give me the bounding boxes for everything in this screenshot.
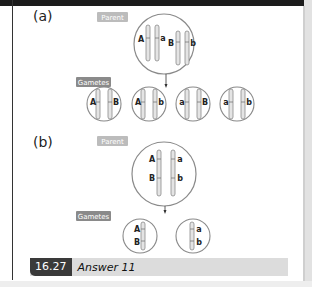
allele-label: A xyxy=(90,98,97,107)
gametes-a: ABAbaBab xyxy=(87,87,254,121)
chromosome xyxy=(190,222,194,250)
gametes-tag-text: Gametes xyxy=(78,79,110,87)
chromosome xyxy=(197,89,201,119)
arrow-down-icon xyxy=(165,84,168,88)
allele-label: a xyxy=(223,98,228,107)
chromosome xyxy=(176,31,180,65)
chromosome xyxy=(185,89,189,119)
parent-tag-b: Parent xyxy=(97,136,128,146)
chromosome xyxy=(108,89,112,119)
figure-caption-text: Answer 11 xyxy=(72,261,136,274)
chromosome xyxy=(229,89,233,119)
allele-label: A xyxy=(138,35,145,44)
chromosome xyxy=(157,150,161,196)
allele-label: B xyxy=(202,98,208,107)
parent-tag-text: Parent xyxy=(101,14,124,22)
parent-tag-text: Parent xyxy=(101,138,124,146)
allele-label: a xyxy=(196,225,201,234)
chromosome xyxy=(171,150,175,196)
parent-cell-b xyxy=(132,142,196,206)
allele-label: A xyxy=(149,155,156,164)
chromosome xyxy=(153,89,157,119)
chromosome xyxy=(96,89,100,119)
chromosome xyxy=(185,31,189,65)
figure-caption: 16.27 Answer 11 xyxy=(30,258,288,276)
allele-label: a xyxy=(179,98,184,107)
allele-label: B xyxy=(134,238,140,247)
chromosome xyxy=(141,222,145,250)
allele-label: b xyxy=(196,238,202,247)
gametes-tag-a: Gametes xyxy=(76,77,111,87)
allele-label: a xyxy=(160,34,165,43)
allele-label: b xyxy=(246,98,252,107)
allele-label: A xyxy=(135,98,142,107)
part-b: Parent A B a b Gametes ABab xyxy=(76,136,210,253)
allele-label: B xyxy=(113,98,119,107)
gametes-b: ABab xyxy=(123,219,210,253)
allele-label: A xyxy=(134,225,141,234)
gamete-cell: aB xyxy=(176,87,210,121)
gamete-cell: ab xyxy=(220,87,254,121)
chromosome xyxy=(141,89,145,119)
arrow-down-icon xyxy=(164,210,167,214)
allele-label: b xyxy=(177,174,183,183)
part-a: Parent A a B b Gametes ABAbaBab xyxy=(76,12,254,121)
allele-label: B xyxy=(149,174,155,183)
allele-label: a xyxy=(177,155,182,164)
gamete-cell: AB xyxy=(87,87,121,121)
chromosome xyxy=(155,25,159,61)
chromosome xyxy=(146,25,150,61)
chromosome xyxy=(241,89,245,119)
genetics-figure: Parent A a B b Gametes ABAbaBab Pa xyxy=(0,0,312,287)
gamete-cell: AB xyxy=(123,219,157,253)
parent-tag-a: Parent xyxy=(97,12,128,22)
gametes-tag-text: Gametes xyxy=(78,213,110,221)
gametes-tag-b: Gametes xyxy=(76,211,111,221)
figure-number: 16.27 xyxy=(30,258,72,276)
allele-label: b xyxy=(158,98,164,107)
gamete-cell: Ab xyxy=(132,87,166,121)
allele-label: B xyxy=(168,39,174,48)
allele-label: b xyxy=(190,39,196,48)
gamete-cell: ab xyxy=(176,219,210,253)
